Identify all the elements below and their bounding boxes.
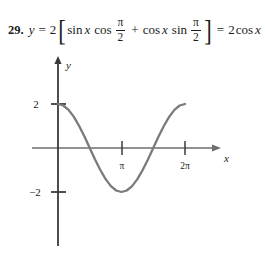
equals-sign-2: = xyxy=(217,22,224,38)
term1-variable-1: x xyxy=(84,22,90,38)
term2-fraction-pi-over-2: π 2 xyxy=(191,17,201,43)
equals-sign-1: = xyxy=(38,22,45,38)
term2-fraction-numerator: π xyxy=(191,17,201,30)
figure-page: 29. y = 2 [ sin x cos π 2 + cos x sin π … xyxy=(0,0,265,257)
term1-function-sin: sin xyxy=(67,22,82,38)
bracket-close: ] xyxy=(204,18,212,43)
problem-number: 29. xyxy=(8,23,24,38)
rhs-coefficient: 2 xyxy=(228,22,235,38)
bracket-open: [ xyxy=(59,18,67,43)
term1-fraction-numerator: π xyxy=(116,17,126,30)
term2-variable-1: x xyxy=(162,22,168,38)
term2-function-cos: cos xyxy=(143,22,160,38)
x-axis-arrowhead xyxy=(212,144,221,151)
equation-coefficient: 2 xyxy=(50,22,57,38)
equation-term-1: sin x cos π 2 xyxy=(67,17,127,43)
rhs-function-cos: cos xyxy=(236,22,253,38)
x-axis-label: x xyxy=(223,152,229,164)
equation-term-2: cos x sin π 2 xyxy=(143,17,203,43)
graph-svg: y x 2 −2 π 2π xyxy=(0,48,265,257)
rhs-variable: x xyxy=(255,22,261,38)
y-axis-arrowhead xyxy=(54,56,61,64)
problem-equation: 29. y = 2 [ sin x cos π 2 + cos x sin π … xyxy=(8,14,260,46)
y-tick-label-2: 2 xyxy=(33,98,39,110)
plus-sign: + xyxy=(131,22,138,38)
term2-fraction-denominator: 2 xyxy=(191,31,201,44)
equation-lhs-variable: y xyxy=(29,22,35,38)
term2-function-sin: sin xyxy=(172,22,187,38)
x-tick-label-2pi: 2π xyxy=(180,161,190,171)
term1-fraction-pi-over-2: π 2 xyxy=(116,17,126,43)
term1-fraction-denominator: 2 xyxy=(116,31,126,44)
y-axis-label: y xyxy=(65,59,71,71)
term1-function-cos: cos xyxy=(94,22,111,38)
y-tick-label-minus-2: −2 xyxy=(29,186,41,198)
cosine-graph: y x 2 −2 π 2π xyxy=(0,48,265,257)
x-tick-label-pi: π xyxy=(120,161,125,171)
